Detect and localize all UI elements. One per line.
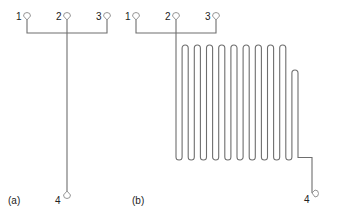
panel-b-port-2-icon <box>173 13 180 20</box>
panel-b-caption: (b) <box>132 195 144 206</box>
panel-a-port-4-icon <box>64 191 71 199</box>
panel-b-port-3-label: 3 <box>205 11 211 22</box>
panel-b-port-1-icon <box>133 13 140 20</box>
panel-a-caption: (a) <box>8 195 20 206</box>
panel-b-serpentine-channel <box>176 20 312 193</box>
panel-a-port-1-icon <box>24 13 31 20</box>
panel-a-port-2-icon <box>64 13 71 20</box>
panel-a-port-1-label: 1 <box>16 11 22 22</box>
panel-a-port-3-icon <box>104 13 111 20</box>
panel-b-port-4-label: 4 <box>304 194 310 205</box>
panel-b: 1 2 3 4 (b) <box>125 11 319 206</box>
microfluidic-diagram: 1 2 3 4 (a) 1 2 3 4 (b) <box>0 0 340 215</box>
panel-b-port-1-label: 1 <box>125 11 131 22</box>
panel-a-port-2-label: 2 <box>56 11 62 22</box>
panel-a-port-4-label: 4 <box>55 195 61 206</box>
panel-a: 1 2 3 4 (a) <box>8 11 111 206</box>
panel-a-port-3-label: 3 <box>96 11 102 22</box>
panel-b-port-2-label: 2 <box>165 11 171 22</box>
panel-b-port-4-icon <box>312 190 319 197</box>
panel-b-port-3-icon <box>213 13 220 20</box>
